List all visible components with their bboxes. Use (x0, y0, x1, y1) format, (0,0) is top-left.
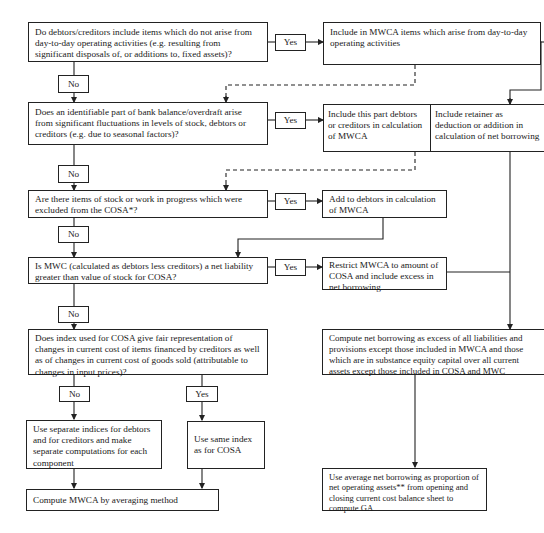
yes-label-3: Yes (275, 193, 306, 210)
question-4-text: Is MWC (calculated as debtors less credi… (35, 261, 253, 282)
action-1-text: Include in MWCA items which arise from d… (330, 27, 527, 48)
compute-mwca-text: Compute MWCA by averaging method (33, 495, 178, 505)
no-label-1: No (58, 75, 89, 93)
question-1-text: Do debtors/creditors include items which… (35, 27, 252, 59)
question-2-text: Does an identifiable part of bank balanc… (35, 107, 246, 139)
question-3-box: Are there items of stock or work in prog… (28, 190, 268, 218)
question-5-box: Does index used for COSA give fair repre… (28, 329, 268, 375)
same-index-text: Use same index as for COSA (194, 434, 252, 455)
action-4-box: Restrict MWCA to amount of COSA and incl… (322, 257, 447, 290)
action-1-box: Include in MWCA items which arise from d… (323, 22, 541, 65)
action-2-left-cell: Include this part debtors or creditors i… (324, 105, 431, 151)
no-label-5: No (59, 386, 90, 402)
question-5-text: Does index used for COSA give fair repre… (35, 333, 260, 377)
yes-label-5: Yes (186, 386, 218, 402)
action-4-text: Restrict MWCA to amount of COSA and incl… (329, 260, 438, 292)
same-index-box: Use same index as for COSA (187, 421, 265, 469)
action-3-text: Add to debtors in calculation of MWCA (329, 194, 436, 215)
action-2-left-text: Include this part debtors or creditors i… (328, 109, 422, 141)
no-label-3: No (58, 226, 89, 243)
yes-label-4: Yes (275, 259, 306, 276)
separate-indices-box: Use separate indices for debtors and for… (26, 420, 162, 469)
question-1-box: Do debtors/creditors include items which… (28, 22, 268, 62)
compute-mwca-box: Compute MWCA by averaging method (26, 489, 219, 511)
average-net-borrowing-text: Use average net borrowing as proportion … (329, 472, 479, 513)
yes-label-2: Yes (275, 112, 306, 129)
flowchart-canvas: Do debtors/creditors include items which… (0, 0, 544, 533)
separate-indices-text: Use separate indices for debtors and for… (33, 424, 150, 468)
question-4-box: Is MWC (calculated as debtors less credi… (28, 257, 268, 284)
no-label-4: No (58, 306, 89, 323)
action-2-split-box: Include this part debtors or creditors i… (323, 104, 544, 152)
action-3-box: Add to debtors in calculation of MWCA (322, 190, 447, 218)
question-3-text: Are there items of stock or work in prog… (35, 194, 242, 215)
yes-label-1: Yes (275, 34, 306, 51)
net-borrowing-text: Compute net borrowing as excess of all l… (329, 333, 523, 376)
no-label-2: No (58, 165, 89, 183)
average-net-borrowing-box: Use average net borrowing as proportion … (322, 468, 487, 511)
net-borrowing-box: Compute net borrowing as excess of all l… (322, 329, 544, 375)
question-2-box: Does an identifiable part of bank balanc… (28, 102, 268, 145)
action-2-right-text: Include retainer as deduction or additio… (435, 109, 539, 141)
action-2-right-cell: Include retainer as deduction or additio… (431, 105, 544, 151)
